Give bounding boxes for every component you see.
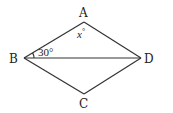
- degree-symbol: °: [82, 27, 85, 36]
- side-AB: [24, 22, 84, 58]
- vertex-label-B: B: [9, 52, 18, 66]
- angle-label-30: 30°: [38, 46, 53, 58]
- angle-arc-ABD: [33, 53, 34, 58]
- side-CD: [84, 58, 141, 94]
- side-BC: [24, 58, 84, 94]
- vertex-label-A: A: [78, 6, 88, 20]
- angle-label-x: x°: [76, 27, 85, 40]
- vertex-label-D: D: [144, 52, 154, 66]
- vertex-label-C: C: [79, 97, 88, 111]
- rhombus-diagram: A B D C 30° x°: [0, 0, 173, 113]
- side-AD: [84, 22, 141, 58]
